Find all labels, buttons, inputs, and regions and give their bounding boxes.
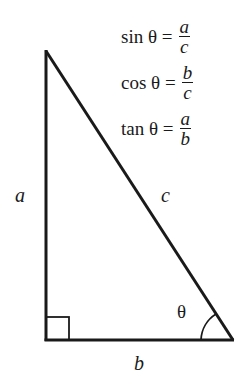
cos-numerator: b (182, 64, 194, 83)
side-c-label: c (161, 184, 170, 207)
cos-formula-lhs: cos θ = (121, 72, 176, 94)
sin-formula: sin θ = a c (121, 18, 190, 55)
theta-angle-arc (201, 314, 216, 340)
side-b-label: b (134, 352, 144, 375)
sin-numerator: a (179, 18, 191, 37)
right-angle-marker (46, 317, 69, 340)
tan-denominator: b (181, 129, 191, 147)
tan-fraction: a b (180, 110, 192, 147)
side-a-label: a (15, 184, 25, 207)
cos-denominator: c (183, 83, 191, 101)
tan-formula: tan θ = a b (121, 110, 191, 147)
sin-fraction: a c (179, 18, 191, 55)
sin-formula-lhs: sin θ = (121, 26, 173, 48)
sin-denominator: c (180, 37, 188, 55)
tan-numerator: a (180, 110, 192, 129)
tan-formula-lhs: tan θ = (121, 118, 174, 140)
theta-label: θ (177, 301, 186, 323)
cos-fraction: b c (182, 64, 194, 101)
right-triangle (0, 0, 249, 388)
cos-formula: cos θ = b c (121, 64, 193, 101)
